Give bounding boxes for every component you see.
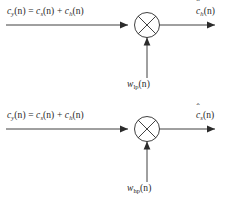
- signal-flow-diagram-lowpass: cy(n) = cs(n) + ch(n) ˆch(n) wlp(n): [0, 0, 238, 104]
- output-arrowhead-icon: [207, 22, 215, 29]
- hat-accent-icon: ˆ: [197, 0, 200, 10]
- carrier-signal-argument: (n): [139, 79, 150, 89]
- signal-flow-diagram-highpass: cy(n) = cs(n) + ch(n) ˆcs(n) whp(n): [0, 104, 238, 208]
- output-label-lowpass: ˆch(n): [196, 6, 215, 17]
- input-arrowhead-icon: [120, 22, 128, 29]
- output-signal-with-hat: ˆc: [196, 6, 200, 16]
- plus-sign: +: [57, 110, 62, 120]
- carrier-label-lowpass: wlp(n): [127, 79, 150, 90]
- input-equation-highpass: cy(n) = cs(n) + ch(n): [7, 110, 84, 121]
- equals-sign: =: [28, 6, 33, 16]
- input-equation-lowpass: cy(n) = cs(n) + ch(n): [7, 6, 84, 17]
- carrier-signal-argument: (n): [140, 183, 151, 193]
- output-label-highpass: ˆcs(n): [196, 110, 214, 121]
- input-signal-argument: (n): [14, 6, 25, 16]
- output-signal-argument: (n): [204, 6, 215, 16]
- carrier-label-highpass: whp(n): [127, 183, 151, 194]
- input-signal-argument: (n): [14, 110, 25, 120]
- carrier-arrowhead-icon: [144, 38, 151, 46]
- input-term1-argument: (n): [43, 6, 54, 16]
- hat-accent-icon: ˆ: [197, 104, 200, 114]
- equals-sign: =: [28, 110, 33, 120]
- input-term2-argument: (n): [72, 6, 83, 16]
- output-signal-argument: (n): [203, 110, 214, 120]
- output-arrowhead-icon: [207, 126, 215, 133]
- plus-sign: +: [57, 6, 62, 16]
- input-term2-argument: (n): [72, 110, 83, 120]
- output-signal-with-hat: ˆc: [196, 110, 200, 120]
- carrier-arrowhead-icon: [144, 142, 151, 150]
- input-term1-argument: (n): [43, 110, 54, 120]
- input-arrowhead-icon: [120, 126, 128, 133]
